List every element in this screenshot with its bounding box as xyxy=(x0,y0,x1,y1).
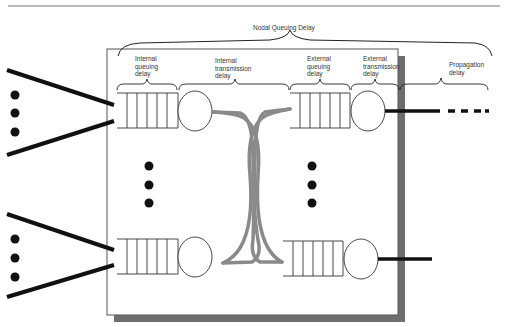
propagation-brace xyxy=(400,78,488,90)
label-line: queuing xyxy=(135,63,158,71)
internal-transmission-delay-label: Internal transmission delay xyxy=(215,57,251,80)
label-line: delay xyxy=(363,70,399,78)
switch-fabric xyxy=(213,109,290,263)
output-server-top xyxy=(351,91,385,131)
internal-queuing-brace xyxy=(117,79,177,90)
label-line: delay xyxy=(135,70,158,78)
input-queue-bottom xyxy=(117,239,178,274)
output-server-bottom xyxy=(344,239,378,279)
label-line: delay xyxy=(215,72,251,80)
input-links-top xyxy=(7,70,114,155)
label-line: External xyxy=(363,55,399,63)
label-line: Internal xyxy=(135,55,158,63)
label-line: transmission xyxy=(215,65,251,73)
input-ellipsis-bottom xyxy=(11,235,20,282)
external-queuing-brace xyxy=(290,79,350,90)
router-delay-diagram xyxy=(0,0,507,327)
input-server-top xyxy=(178,91,212,131)
ellipsis-left xyxy=(145,162,154,208)
output-queue-bottom xyxy=(283,241,343,276)
label-line: Internal xyxy=(215,57,251,65)
label-line: queuing xyxy=(307,63,331,71)
label-line: delay xyxy=(307,70,331,78)
label-line: Propagation xyxy=(449,61,484,69)
nodal-queuing-delay-label: Nodal Queuing Delay xyxy=(253,24,315,32)
input-queue-top xyxy=(117,93,178,128)
label-line: delay xyxy=(449,69,484,77)
external-queuing-delay-label: External queuing delay xyxy=(307,55,331,78)
delay-braces xyxy=(117,78,488,90)
label-line: External xyxy=(307,55,331,63)
input-links-bottom xyxy=(7,214,114,297)
output-queue-top xyxy=(290,93,350,128)
internal-queuing-delay-label: Internal queuing delay xyxy=(135,55,158,78)
label-line: transmission xyxy=(363,63,399,71)
input-server-bottom xyxy=(178,237,212,277)
input-ellipsis-top xyxy=(11,91,20,137)
nodal-delay-brace xyxy=(118,30,492,56)
ellipsis-right xyxy=(308,162,317,208)
external-transmission-brace xyxy=(351,79,399,90)
internal-transmission-brace xyxy=(179,79,289,90)
external-transmission-delay-label: External transmission delay xyxy=(363,55,399,78)
propagation-delay-label: Propagation delay xyxy=(449,61,484,76)
